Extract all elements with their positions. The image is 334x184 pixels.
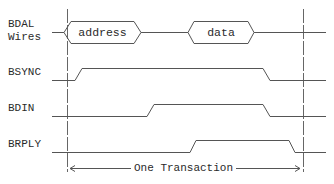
bsync-trace xyxy=(52,69,326,81)
timing-diagram xyxy=(0,0,334,184)
signal-label-bdal: BDAL Wires xyxy=(8,18,41,44)
bdin-trace xyxy=(52,105,326,117)
transaction-span-label: One Transaction xyxy=(131,162,236,175)
signal-label-bsync: BSYNC xyxy=(8,66,41,79)
signal-label-bdin: BDIN xyxy=(8,102,34,115)
bus-segment-label-data: data xyxy=(194,26,248,39)
bus-segment-label-address: address xyxy=(71,26,134,39)
brply-trace xyxy=(52,141,326,153)
signal-label-brply: BRPLY xyxy=(8,138,41,151)
